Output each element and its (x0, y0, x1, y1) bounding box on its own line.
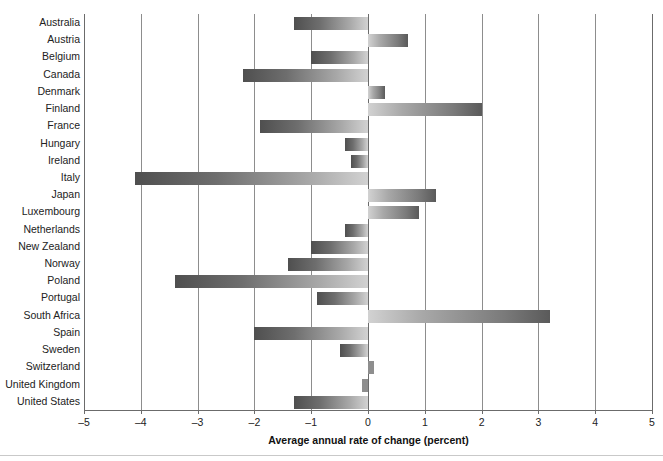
category-label: United Kingdom (2, 378, 80, 390)
bar (368, 310, 550, 323)
bar-row (84, 324, 652, 341)
bar-row (84, 289, 652, 306)
x-tick-label: 0 (348, 416, 388, 428)
bar (368, 189, 436, 202)
category-label: Italy (2, 171, 80, 183)
bar (135, 172, 368, 185)
bar-row (84, 135, 652, 152)
bar (368, 206, 419, 219)
x-tick-mark (311, 410, 312, 414)
bar-chart-figure: AustraliaAustriaBelgiumCanadaDenmarkFinl… (0, 0, 663, 461)
category-label: Belgium (2, 50, 80, 62)
x-tick-mark (538, 410, 539, 414)
category-label: Canada (2, 68, 80, 80)
bar (311, 241, 368, 254)
bar-row (84, 169, 652, 186)
x-tick-mark (198, 410, 199, 414)
bar (345, 138, 368, 151)
x-tick-mark (652, 410, 653, 414)
bar (368, 86, 385, 99)
bar (345, 224, 368, 237)
bar (294, 396, 368, 409)
bar-row (84, 152, 652, 169)
bar-row (84, 117, 652, 134)
category-label: Australia (2, 16, 80, 28)
x-tick-label: –2 (234, 416, 274, 428)
bar-row (84, 341, 652, 358)
bar-row (84, 203, 652, 220)
category-label: Spain (2, 326, 80, 338)
category-label: Japan (2, 188, 80, 200)
footer-divider (0, 455, 663, 456)
x-tick-mark (141, 410, 142, 414)
bar (368, 103, 482, 116)
x-tick-mark (254, 410, 255, 414)
bar (317, 292, 368, 305)
category-label: South Africa (2, 309, 80, 321)
x-tick-label: 3 (518, 416, 558, 428)
category-label: Poland (2, 274, 80, 286)
x-tick-label: 2 (462, 416, 502, 428)
category-label: Norway (2, 257, 80, 269)
plot-area (84, 14, 652, 410)
bar (351, 155, 368, 168)
bar-row (84, 31, 652, 48)
bar (175, 275, 368, 288)
bar-row (84, 376, 652, 393)
x-tick-label: –3 (178, 416, 218, 428)
category-label: Ireland (2, 154, 80, 166)
bar-row (84, 14, 652, 31)
category-label: Netherlands (2, 223, 80, 235)
bar (260, 120, 368, 133)
category-label: Finland (2, 102, 80, 114)
category-label: Denmark (2, 85, 80, 97)
x-tick-mark (595, 410, 596, 414)
bar (362, 379, 368, 392)
bar (243, 69, 368, 82)
bar-row (84, 238, 652, 255)
x-tick-label: –1 (291, 416, 331, 428)
bar-row (84, 307, 652, 324)
bar (311, 51, 368, 64)
category-label: New Zealand (2, 240, 80, 252)
category-label: Hungary (2, 137, 80, 149)
x-tick-mark (425, 410, 426, 414)
x-tick-mark (482, 410, 483, 414)
category-label: Switzerland (2, 360, 80, 372)
category-label: Sweden (2, 343, 80, 355)
bar (294, 17, 368, 30)
bar-row (84, 48, 652, 65)
category-label: United States (2, 395, 80, 407)
x-tick-label: 1 (405, 416, 445, 428)
bar (368, 34, 408, 47)
category-label: France (2, 119, 80, 131)
x-axis-title: Average annual rate of change (percent) (84, 434, 653, 446)
gridline-5 (652, 14, 653, 410)
bar-row (84, 221, 652, 238)
bar-row (84, 358, 652, 375)
category-label: Austria (2, 33, 80, 45)
x-tick-mark (84, 410, 85, 414)
bar-row (84, 83, 652, 100)
bar (340, 344, 368, 357)
bar-row (84, 100, 652, 117)
bar-row (84, 393, 652, 410)
x-tick-mark (368, 410, 369, 414)
category-label: Portugal (2, 291, 80, 303)
bar (288, 258, 368, 271)
bar-row (84, 186, 652, 203)
category-axis: AustraliaAustriaBelgiumCanadaDenmarkFinl… (0, 14, 80, 410)
category-label: Luxembourg (2, 205, 80, 217)
bar (254, 327, 368, 340)
x-tick-label: –4 (121, 416, 161, 428)
bar (368, 361, 374, 374)
bar-row (84, 272, 652, 289)
bar-row (84, 255, 652, 272)
bar-row (84, 66, 652, 83)
x-tick-label: 5 (632, 416, 663, 428)
x-tick-label: –5 (64, 416, 104, 428)
x-tick-label: 4 (575, 416, 615, 428)
